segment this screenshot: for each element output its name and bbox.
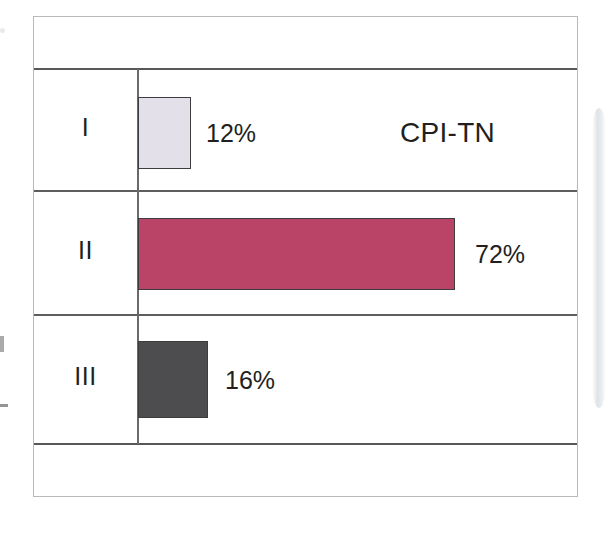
- category-label-i: I: [34, 115, 137, 140]
- chart-row-i: I 12% CPI-TN: [34, 69, 577, 190]
- scan-artifact-left-top: [0, 28, 5, 33]
- scan-artifact-left-lower: [0, 404, 8, 407]
- chart-bottom-band: [34, 443, 577, 496]
- series-title-label: CPI-TN: [400, 119, 495, 147]
- bar-value-label-ii: 72%: [475, 242, 525, 267]
- bar-value-label-i: 12%: [206, 121, 256, 146]
- bar-category-i: [138, 97, 191, 169]
- chart-row-ii: II 72%: [34, 190, 577, 314]
- category-label-ii: II: [34, 238, 137, 263]
- bar-category-iii: [138, 341, 208, 418]
- scan-artifact-left-middle: [0, 336, 4, 352]
- bar-value-label-iii: 16%: [225, 368, 275, 393]
- bar-category-ii: [138, 218, 455, 290]
- chart-top-band: [34, 17, 577, 69]
- category-label-iii: III: [34, 364, 137, 389]
- chart-screenshot: I 12% CPI-TN II 72% III 16%: [0, 0, 609, 543]
- chart-row-iii: III 16%: [34, 314, 577, 443]
- scan-artifact-right-edge: [592, 108, 606, 408]
- bar-chart-frame: I 12% CPI-TN II 72% III 16%: [33, 16, 578, 497]
